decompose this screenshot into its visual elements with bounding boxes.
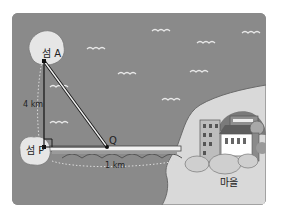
diagram-frame: 섬 A 섬 P Q 4 km 1 km 마을 (12, 13, 266, 205)
label-island-a: 섬 A (42, 49, 61, 59)
label-distance-ap: 4 km (23, 101, 43, 109)
label-village: 마을 (220, 178, 238, 188)
point-a (42, 59, 46, 63)
label-point-q: Q (109, 136, 117, 146)
label-distance-pq: 1 km (105, 162, 125, 170)
label-island-p: 섬 P (26, 146, 44, 156)
